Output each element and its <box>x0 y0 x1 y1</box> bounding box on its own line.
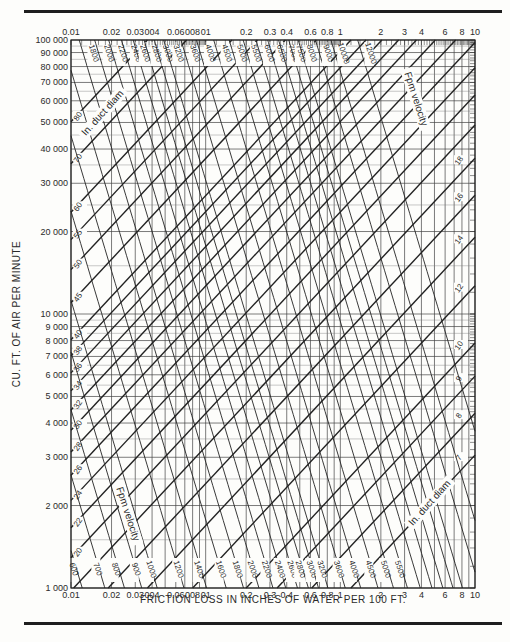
x-tick-label-top: 2 <box>378 27 383 37</box>
annotation-label: In. duct diam <box>406 478 452 528</box>
x-tick-label-top: 10 <box>470 27 480 37</box>
y-axis-title: CU. FT. OF AIR PER MINUTE <box>11 241 22 387</box>
x-axis-top-labels: 0.010.020.030040.06008010.20.30.40.60.81… <box>62 27 480 37</box>
y-tick-label: 60 000 <box>40 96 68 106</box>
y-tick-label: 1 000 <box>45 583 68 593</box>
y-tick-label: 70 000 <box>40 77 68 87</box>
x-tick-label-top: 0.02 <box>103 27 121 37</box>
x-tick-label-top: 008 <box>185 27 200 37</box>
y-tick-label: 7 000 <box>45 351 68 361</box>
y-tick-label: 5 000 <box>45 391 68 401</box>
y-tick-label: 3 000 <box>45 452 68 462</box>
x-tick-label-top: 8 <box>459 27 464 37</box>
y-tick-label: 6 000 <box>45 370 68 380</box>
x-tick-label-top: 1 <box>338 27 343 37</box>
y-tick-label: 30 000 <box>40 178 68 188</box>
x-tick-label-top: 0.2 <box>240 27 253 37</box>
y-tick-label: 40 000 <box>40 144 68 154</box>
y-tick-label: 4 000 <box>45 418 68 428</box>
y-tick-label: 50 000 <box>40 117 68 127</box>
y-tick-label: 20 000 <box>40 227 68 237</box>
y-tick-label: 80 000 <box>40 62 68 72</box>
y-tick-label: 90 000 <box>40 48 68 58</box>
y-tick-label: 100 000 <box>35 35 68 45</box>
x-tick-label-top: 3 <box>402 27 407 37</box>
x-tick-label-bottom: 6 <box>443 590 448 600</box>
y-tick-label: 8 000 <box>45 336 68 346</box>
x-tick-label-top: 4 <box>419 27 424 37</box>
x-tick-label-top: 6 <box>443 27 448 37</box>
x-tick-label-bottom: 10 <box>470 590 480 600</box>
y-tick-label: 9 000 <box>45 322 68 332</box>
y-tick-label: 2 000 <box>45 501 68 511</box>
y-axis-labels: 100 00090 00080 00070 00060 00050 00040 … <box>35 35 68 593</box>
x-tick-label-top: 0.4 <box>280 27 293 37</box>
x-tick-label-bottom: 8 <box>459 590 464 600</box>
x-tick-label-top: 01 <box>201 27 211 37</box>
friction-loss-chart: 7891012141618202224262830323436384045505… <box>0 0 510 642</box>
y-tick-label: 10 000 <box>40 309 68 319</box>
x-tick-label-top: 0.3 <box>264 27 277 37</box>
x-tick-label-top: 0.8 <box>321 27 334 37</box>
x-tick-label-top: 0.06 <box>167 27 185 37</box>
x-tick-label-bottom: 4 <box>419 590 424 600</box>
x-tick-label-top: 0.03 <box>126 27 144 37</box>
x-tick-label-bottom: 0.02 <box>103 590 121 600</box>
x-tick-label-top: 0.6 <box>304 27 317 37</box>
x-tick-label-top: 004 <box>145 27 160 37</box>
x-axis-title: FRICTION LOSS IN INCHES OF WATER PER 100… <box>140 594 406 605</box>
